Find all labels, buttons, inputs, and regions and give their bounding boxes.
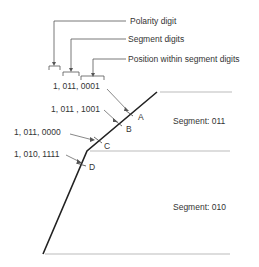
point-d-label: D: [89, 162, 95, 172]
point-c-label: C: [104, 141, 110, 151]
code-b: 1, 011 , 1001: [51, 104, 100, 114]
position-digits-label: Position within segment digits: [128, 54, 240, 64]
code-d: 1, 010, 1111: [14, 149, 60, 159]
segment-digits-label: Segment digits: [128, 34, 184, 44]
code-c: 1, 011, 0000: [14, 127, 61, 137]
point-b-label: B: [126, 124, 132, 134]
compression-diagram: Polarity digit Segment digits Position w…: [0, 0, 259, 267]
point-a-label: A: [138, 112, 144, 122]
arrowheads: [52, 62, 95, 77]
segment-011-label: Segment: 011: [173, 116, 226, 126]
polarity-digit-label: Polarity digit: [130, 16, 177, 26]
segment-010-label: Segment: 010: [173, 202, 226, 212]
legend-leaders: [54, 21, 126, 75]
code-a: 1, 011, 0001: [53, 81, 100, 91]
digit-brackets: [49, 66, 104, 80]
